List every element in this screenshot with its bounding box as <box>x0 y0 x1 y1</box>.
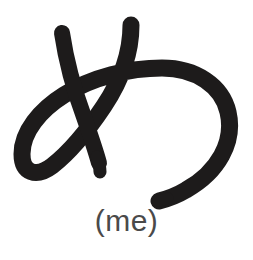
hiragana-me-svg <box>0 0 253 210</box>
hiragana-character-card: (me) <box>0 0 253 260</box>
romaji-label: (me) <box>0 203 253 239</box>
looping-curve-stroke <box>22 25 230 201</box>
glyph-canvas <box>0 0 253 210</box>
